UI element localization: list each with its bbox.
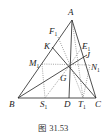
geometry-figure: ABCDS1T1GKF1M1E1JN1 图 31.53 [0, 0, 110, 138]
label-K: K [43, 41, 51, 51]
label-A: A [67, 7, 74, 17]
segment-A-B [18, 20, 72, 98]
label-G: G [60, 73, 67, 83]
dotted-segment-M1-N1 [42, 64, 90, 65]
segment-A-D [69, 20, 72, 98]
label-N1: N1 [90, 62, 100, 73]
label-C: C [95, 99, 102, 109]
segment-A-C [72, 20, 96, 98]
dotted-segment-G-T1 [70, 65, 83, 98]
label-F1: F1 [48, 26, 58, 37]
label-B: B [9, 99, 15, 109]
label-T1: T1 [78, 99, 86, 110]
dotted-segment-N1-T1 [83, 65, 90, 98]
label-M1: M1 [28, 58, 40, 69]
label-D: D [63, 99, 71, 109]
label-S1: S1 [40, 99, 48, 110]
label-J: J [86, 50, 91, 60]
figure-caption: 图 31.53 [38, 123, 68, 133]
